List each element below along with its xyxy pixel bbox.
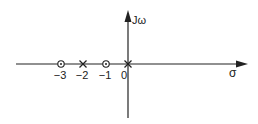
pole-zero-diagram: Jω σ −3 −2 −1 0 xyxy=(0,0,258,124)
plot-graphics xyxy=(0,0,258,124)
sigma-axis-arrow-icon xyxy=(236,61,248,68)
tick-label-neg3: −3 xyxy=(54,70,67,81)
zero-marker-neg1 xyxy=(103,61,109,67)
sigma-axis-label: σ xyxy=(229,68,236,79)
jw-axis-arrow-icon xyxy=(125,10,132,22)
jw-axis-label: Jω xyxy=(132,15,146,26)
tick-label-0: 0 xyxy=(121,70,127,81)
tick-label-neg1: −1 xyxy=(99,70,112,81)
zero-marker-neg3 xyxy=(58,61,64,67)
tick-label-neg2: −2 xyxy=(76,70,89,81)
